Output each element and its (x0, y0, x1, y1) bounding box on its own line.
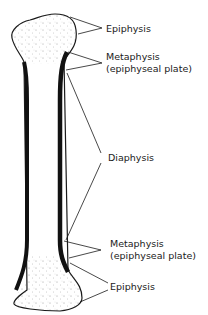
label-metaphysis-top-sub: (epiphyseal plate) (106, 63, 192, 74)
label-diaphysis: Diaphysis (108, 152, 154, 163)
label-epiphysis-bottom: Epiphysis (110, 281, 155, 292)
label-epiphysis-top: Epiphysis (106, 23, 151, 34)
label-metaphysis-top: Metaphysis (106, 51, 160, 62)
leader-lines (64, 17, 108, 302)
cortex-left (16, 62, 27, 290)
bone-diagram (0, 0, 208, 315)
label-metaphysis-bottom: Metaphysis (110, 238, 164, 249)
label-metaphysis-bottom-sub: (epiphyseal plate) (110, 250, 196, 261)
